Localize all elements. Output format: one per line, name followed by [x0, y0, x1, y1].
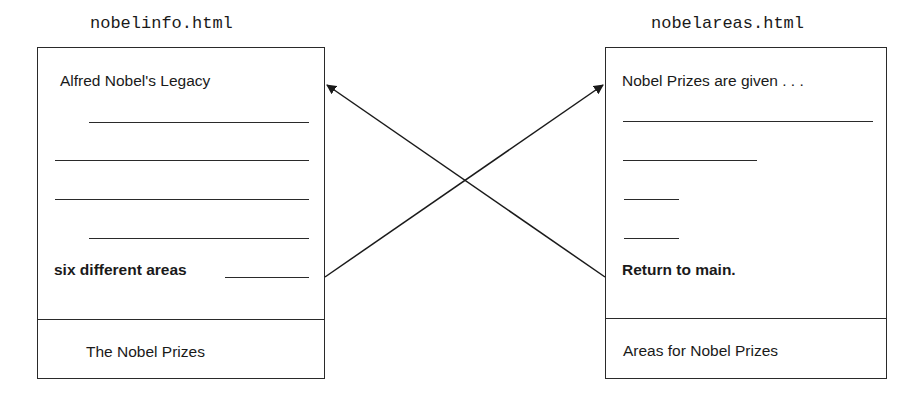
placeholder-text-line [623, 160, 757, 161]
arrow-to-nobelareas [325, 85, 603, 277]
placeholder-text-line [624, 238, 679, 239]
nobelinfo-heading: Alfred Nobel's Legacy [60, 72, 210, 90]
six-different-areas-link[interactable]: six different areas [54, 261, 187, 279]
nobelareas-filename: nobelareas.html [651, 14, 804, 33]
nobelinfo-page-title: The Nobel Prizes [86, 343, 205, 361]
placeholder-text-line [55, 199, 309, 200]
arrow-to-nobelinfo [327, 85, 605, 277]
return-to-main-link[interactable]: Return to main. [622, 261, 736, 279]
nobelareas-page: Nobel Prizes are given . . . Return to m… [605, 47, 887, 379]
placeholder-text-line [225, 277, 309, 278]
nobelinfo-title-bar: The Nobel Prizes [38, 319, 324, 378]
nobelareas-page-title: Areas for Nobel Prizes [623, 342, 778, 360]
placeholder-text-line [89, 238, 309, 239]
placeholder-text-line [89, 122, 309, 123]
placeholder-text-line [55, 160, 309, 161]
nobelareas-title-bar: Areas for Nobel Prizes [606, 318, 886, 378]
nobelinfo-page: Alfred Nobel's Legacy six different area… [37, 47, 325, 379]
placeholder-text-line [624, 199, 679, 200]
nobelareas-heading: Nobel Prizes are given . . . [622, 72, 804, 90]
nobelinfo-filename: nobelinfo.html [90, 14, 233, 33]
placeholder-text-line [623, 121, 873, 122]
